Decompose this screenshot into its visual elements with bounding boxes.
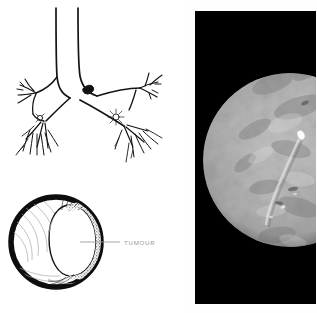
bronchial-tree-diagram xyxy=(0,0,190,182)
tumour-label: TUMOUR xyxy=(124,239,155,246)
bronchoscopy-photo-panel xyxy=(195,11,316,304)
figure-root: TUMOUR xyxy=(0,0,317,313)
airway-cross-section-diagram: TUMOUR xyxy=(0,180,190,313)
bronchoscopy-image xyxy=(195,11,316,304)
diagram-panel: TUMOUR xyxy=(0,0,190,313)
